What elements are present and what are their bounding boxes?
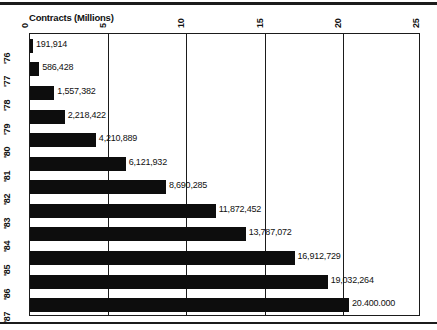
bar <box>30 86 54 100</box>
gridline <box>343 34 344 315</box>
y-axis-tick-label: '77 <box>2 76 12 87</box>
x-axis-tick-label: 25 <box>411 19 421 28</box>
bar <box>30 110 65 124</box>
x-axis-tick-label: 5 <box>98 23 108 28</box>
bar <box>30 204 216 218</box>
gridline <box>186 34 187 315</box>
chart-title: Contracts (Millions) <box>29 12 114 23</box>
gridline <box>265 34 266 315</box>
bar-value-label: 2,218,422 <box>68 110 106 120</box>
bar-value-label: 6,121,932 <box>129 157 167 167</box>
bar-value-label: 191,914 <box>36 39 67 49</box>
bar <box>30 39 33 53</box>
bar-value-label: 1,557,382 <box>57 86 95 96</box>
x-axis-tick-label: 20 <box>333 19 343 28</box>
y-axis-tick-label: '83 <box>2 218 12 229</box>
y-axis-tick-label: '79 <box>2 123 12 134</box>
y-axis-tick-label: '86 <box>2 288 12 299</box>
bar <box>30 133 96 147</box>
bar <box>30 298 349 312</box>
bar-chart-figure: Contracts (Millions) 0510152025 '76'77'7… <box>0 0 437 330</box>
y-axis-tick-label: '81 <box>2 170 12 181</box>
bar-value-label: 20.400.000 <box>352 298 395 308</box>
plot-area <box>29 33 420 316</box>
bar-value-label: 11,872,452 <box>219 204 261 214</box>
bar-value-label: 19,032,264 <box>331 275 374 285</box>
bar <box>30 227 246 241</box>
y-axis-tick-label: '84 <box>2 241 12 252</box>
y-axis-tick-label: '80 <box>2 147 12 158</box>
y-axis-tick-label: '87 <box>2 312 12 323</box>
bar <box>30 275 328 289</box>
gridline <box>108 34 109 315</box>
x-axis-tick-label: 15 <box>255 19 265 28</box>
x-axis-tick-label: 10 <box>176 19 186 28</box>
y-axis-tick-label: '85 <box>2 265 12 276</box>
bar-value-label: 8,690,285 <box>169 180 207 190</box>
bar-value-label: 586,428 <box>42 62 73 72</box>
bar-value-label: 13,787,072 <box>249 227 292 237</box>
bar <box>30 62 39 76</box>
y-axis-tick-label: '82 <box>2 194 12 205</box>
y-axis-tick-label: '78 <box>2 100 12 111</box>
bar <box>30 157 126 171</box>
y-axis-tick-label: '76 <box>2 53 12 64</box>
bar <box>30 180 166 194</box>
bar-value-label: 16,912,729 <box>298 251 341 261</box>
bar-value-label: 4,210,889 <box>99 133 137 143</box>
x-axis-tick-label: 0 <box>20 23 30 28</box>
bar <box>30 251 295 265</box>
